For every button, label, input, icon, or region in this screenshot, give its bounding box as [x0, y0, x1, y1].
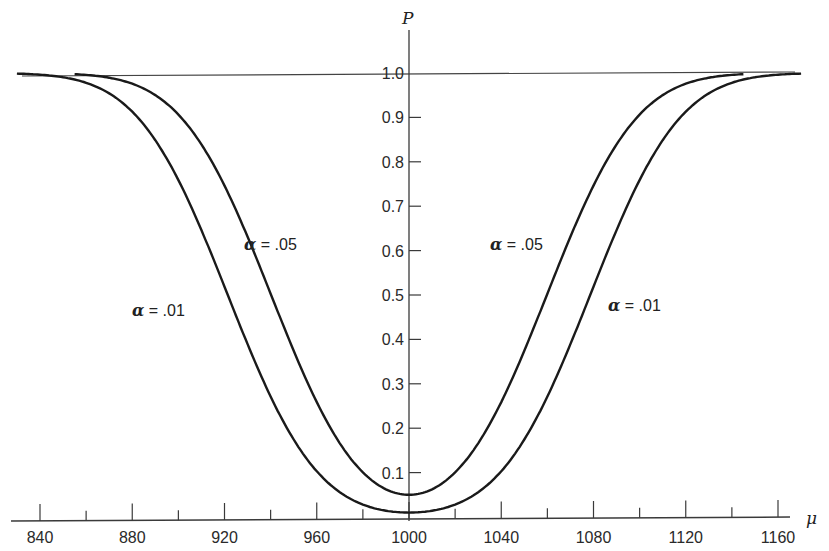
y-tick-label: 0.4 — [382, 331, 404, 348]
y-tick-label: 0.5 — [382, 287, 404, 304]
x-tick-label: 1120 — [669, 529, 704, 546]
x-tick-label: 1000 — [391, 529, 427, 546]
label-left-alpha-05: α = .05 — [244, 235, 297, 254]
y-tick-label: 0.7 — [382, 198, 404, 215]
y-tick-label: 1.0 — [382, 65, 404, 82]
y-tick-label: 0.2 — [382, 420, 404, 437]
x-tick-label: 960 — [303, 529, 330, 546]
y-tick-label: 0.8 — [382, 154, 404, 171]
y-tick-label: 0.3 — [382, 376, 404, 393]
x-axis-title: μ — [806, 508, 817, 528]
alpha-symbol: α — [490, 235, 502, 254]
y-axis-ticks: 0.10.20.30.40.50.60.70.80.91.0 — [382, 65, 421, 482]
y-tick-label: 0.6 — [382, 243, 404, 260]
x-tick-label: 920 — [211, 529, 238, 546]
y-tick-label: 0.9 — [382, 109, 404, 126]
label-value: = .01 — [144, 302, 185, 319]
alpha-symbol: α — [608, 296, 620, 315]
label-right-alpha-05: α = .05 — [490, 235, 543, 254]
label-value: = .05 — [256, 236, 297, 253]
alpha-symbol: α — [132, 301, 144, 320]
label-left-alpha-01: α = .01 — [132, 301, 185, 320]
alpha-symbol: α — [244, 235, 256, 254]
label-value: = .01 — [620, 297, 661, 314]
label-right-alpha-01: α = .01 — [608, 296, 661, 315]
y-tick-label: 0.1 — [382, 465, 404, 482]
label-value: = .05 — [502, 236, 543, 253]
x-tick-label: 1040 — [483, 529, 519, 546]
x-tick-label: 1080 — [576, 529, 612, 546]
x-tick-label: 840 — [27, 529, 54, 546]
x-tick-label: 1160 — [761, 529, 796, 546]
x-axis — [11, 517, 790, 521]
y-axis-title: P — [401, 8, 414, 28]
x-axis-ticks: 84088092096010001040108011201160 — [27, 500, 796, 546]
power-curve-chart: 0.10.20.30.40.50.60.70.80.91.0 P 8408809… — [0, 0, 829, 551]
x-tick-label: 880 — [119, 529, 146, 546]
